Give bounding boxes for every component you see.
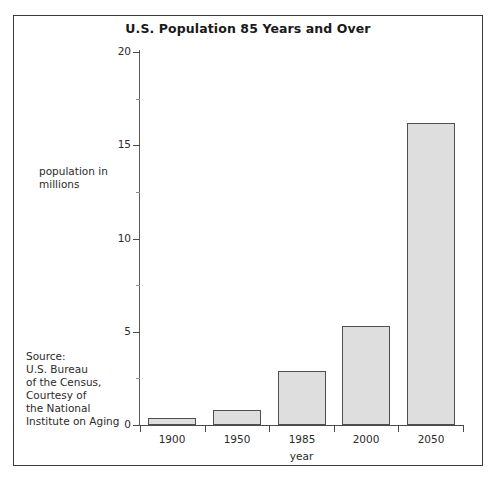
x-tick xyxy=(463,426,464,432)
x-tick xyxy=(334,426,335,432)
y-tick-minor xyxy=(136,285,140,286)
y-tick-major xyxy=(133,239,140,240)
x-tick xyxy=(205,426,206,432)
x-tick xyxy=(398,426,399,432)
y-tick-label: 0 xyxy=(86,419,131,430)
source-note-line-3: of the Census, xyxy=(26,376,126,389)
chart-title: U.S. Population 85 Years and Over xyxy=(13,21,483,36)
x-tick-label: 2050 xyxy=(399,433,463,445)
x-tick-label: 1985 xyxy=(270,433,334,445)
y-tick-label: 5 xyxy=(86,326,131,337)
bar-1950 xyxy=(213,410,261,425)
source-note-line-2: U.S. Bureau xyxy=(26,363,126,376)
y-axis-caption: population in millions xyxy=(39,165,131,191)
bar-1900 xyxy=(148,418,196,425)
y-tick-major xyxy=(133,425,140,426)
x-tick-label: 2000 xyxy=(334,433,398,445)
x-tick-label: 1900 xyxy=(140,433,204,445)
y-tick-label: 15 xyxy=(86,139,131,150)
y-axis-caption-line-1: population in xyxy=(39,165,131,178)
y-tick-minor xyxy=(136,192,140,193)
source-note-line-5: the National xyxy=(26,402,126,415)
source-note-line-4: Courtesy of xyxy=(26,389,126,402)
y-tick-minor xyxy=(136,378,140,379)
y-tick-label: 20 xyxy=(86,46,131,57)
x-tick-label: 1950 xyxy=(205,433,269,445)
bar-2050 xyxy=(407,123,455,425)
x-axis-title: year xyxy=(139,450,464,462)
figure-canvas: U.S. Population 85 Years and Over popula… xyxy=(0,0,499,480)
y-tick-major xyxy=(133,332,140,333)
y-tick-major xyxy=(133,145,140,146)
y-tick-minor xyxy=(136,99,140,100)
source-note: Source: U.S. Bureau of the Census, Court… xyxy=(26,350,126,428)
x-tick xyxy=(140,426,141,432)
x-tick xyxy=(269,426,270,432)
y-axis-caption-line-2: millions xyxy=(39,178,131,191)
bar-1985 xyxy=(278,371,326,425)
y-tick-label: 10 xyxy=(86,233,131,244)
source-note-line-1: Source: xyxy=(26,350,126,363)
bar-2000 xyxy=(342,326,390,425)
y-tick-major xyxy=(133,52,140,53)
x-axis-line xyxy=(139,425,464,426)
